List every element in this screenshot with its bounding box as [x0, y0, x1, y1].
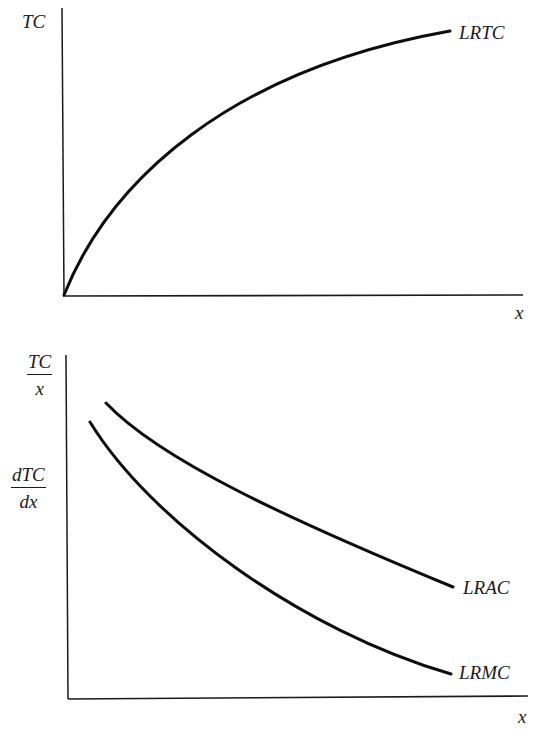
marginal-cost-axis-label: dTC dx	[11, 465, 46, 511]
bottom-x-axis	[68, 696, 528, 699]
top-x-axis	[63, 295, 523, 296]
lrmc-label: LRMC	[459, 663, 510, 682]
average-cost-numerator: TC	[27, 352, 52, 375]
diagram-canvas	[0, 0, 538, 740]
bottom-x-axis-label: x	[518, 707, 526, 726]
top-y-axis	[62, 8, 64, 296]
lrac-label: LRAC	[463, 578, 509, 597]
cost-curves-figure: TC LRTC x TC x dTC dx LRAC LRMC x	[0, 0, 538, 740]
average-cost-denominator: x	[35, 375, 43, 398]
lrtc-label: LRTC	[459, 23, 504, 42]
marginal-cost-denominator: dx	[19, 488, 37, 511]
bottom-panel-axes	[66, 355, 528, 699]
top-panel-axes	[62, 8, 523, 296]
top-y-axis-label: TC	[22, 12, 45, 31]
lrac-curve	[106, 403, 453, 587]
lrtc-curve	[64, 31, 450, 295]
lrmc-curve	[90, 422, 451, 674]
bottom-y-axis	[66, 355, 68, 699]
top-x-axis-label: x	[515, 303, 523, 322]
average-cost-axis-label: TC x	[27, 352, 52, 398]
marginal-cost-numerator: dTC	[11, 465, 46, 488]
